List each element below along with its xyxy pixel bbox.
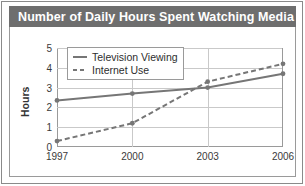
legend-item-television: Television Viewing <box>72 50 178 63</box>
y-tick-label: 4 <box>46 62 52 73</box>
legend-swatch-dashed-icon <box>72 65 88 75</box>
legend-label-television: Television Viewing <box>92 51 178 63</box>
legend-swatch-solid-icon <box>72 52 88 62</box>
data-point <box>205 79 210 84</box>
y-tick-label: 2 <box>46 102 52 113</box>
y-axis-title: Hours <box>18 72 32 132</box>
legend-item-internet: Internet Use <box>72 63 178 76</box>
chart-figure: Number of Daily Hours Spent Watching Med… <box>0 0 305 186</box>
data-point <box>281 71 286 76</box>
x-tick-label: 1997 <box>46 151 68 162</box>
x-tick-label: 2000 <box>121 151 143 162</box>
data-point <box>205 85 210 90</box>
y-tick-label: 1 <box>46 122 52 133</box>
x-tick-label: 2006 <box>272 151 294 162</box>
data-point <box>130 91 135 96</box>
y-tick-label: 5 <box>46 43 52 54</box>
legend: Television Viewing Internet Use <box>67 47 184 80</box>
legend-label-internet: Internet Use <box>92 64 149 76</box>
y-tick-label: 3 <box>46 82 52 93</box>
page-title: Number of Daily Hours Spent Watching Med… <box>9 10 294 24</box>
data-point <box>281 61 286 66</box>
data-point <box>55 139 60 144</box>
chart-title-bar: Number of Daily Hours Spent Watching Med… <box>9 6 296 27</box>
data-point <box>55 98 60 103</box>
data-point <box>130 121 135 126</box>
x-tick-label: 2003 <box>197 151 219 162</box>
